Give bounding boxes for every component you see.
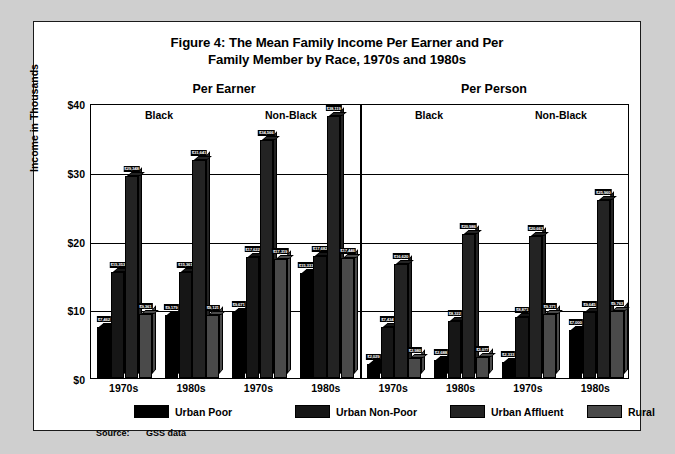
x-axis-tick-label: 1980s xyxy=(427,382,494,394)
bar: $9,179 xyxy=(165,315,178,378)
bar-value-label: $31,641 xyxy=(191,150,207,156)
bar: $9,371 xyxy=(543,314,556,378)
bar-value-label: $16,620 xyxy=(393,253,409,259)
bar-front-face xyxy=(502,362,515,378)
bar-front-face xyxy=(476,357,489,378)
bar-value-label: $29,348 xyxy=(123,166,139,172)
bar-side-face xyxy=(354,249,358,374)
bar-front-face xyxy=(462,234,475,378)
bar-side-face xyxy=(152,305,156,374)
bar-value-label: $17,622 xyxy=(244,246,260,252)
bar-front-face xyxy=(232,312,245,378)
bar-side-face xyxy=(219,307,223,374)
bar-value-label: $25,960 xyxy=(595,189,611,195)
bar-front-face xyxy=(165,315,178,378)
bar-side-face xyxy=(556,305,560,374)
bar-value-label: $2,333 xyxy=(501,351,515,357)
x-axis-tick-label: 1980s xyxy=(292,382,359,394)
legend-label: Urban Poor xyxy=(175,406,232,418)
bar: $17,622 xyxy=(246,257,259,378)
bar: $2,980 xyxy=(408,358,421,378)
bar: $20,663 xyxy=(529,236,542,378)
bar: $34,566 xyxy=(260,140,273,378)
bar-front-face xyxy=(246,257,259,378)
bar: $9,121 xyxy=(206,315,219,378)
bar-front-face xyxy=(206,315,219,378)
bar-value-label: $7,434 xyxy=(380,316,394,322)
bar: $7,000 xyxy=(569,330,582,378)
bar-value-label: $2,029 xyxy=(366,354,380,360)
chart-title: Figure 4: The Mean Family Income Per Ear… xyxy=(34,34,640,68)
bar-front-face xyxy=(583,312,596,378)
bar-front-face xyxy=(97,327,110,378)
bar: $15,333 xyxy=(300,273,313,378)
sub-panel-header: Non-Black xyxy=(501,109,621,121)
bar: $7,434 xyxy=(381,327,394,378)
bar-front-face xyxy=(192,160,205,378)
bar-front-face xyxy=(367,364,380,378)
bar-front-face xyxy=(313,256,326,378)
bar-value-label: $17,446 xyxy=(339,248,355,254)
legend-item[interactable]: Urban Poor xyxy=(134,405,232,418)
bar-value-label: $7,462 xyxy=(97,316,111,322)
bar-side-face xyxy=(624,302,628,374)
bar: $9,671 xyxy=(232,312,245,378)
bar: $2,333 xyxy=(502,362,515,378)
bar: $15,353 xyxy=(111,272,124,378)
bar: $17,446 xyxy=(341,258,354,378)
bar-front-face xyxy=(125,176,138,378)
bar-value-label: $15,353 xyxy=(110,262,126,268)
panel-header-per-person: Per Person xyxy=(360,82,628,96)
bar-front-face xyxy=(381,327,394,378)
bar-front-face xyxy=(448,321,461,378)
plot-area: $40$30$20$10$0BlackNon-BlackBlackNon-Bla… xyxy=(90,104,629,379)
bar: $8,871 xyxy=(515,317,528,378)
bar: $9,361 xyxy=(139,314,152,378)
bar-front-face xyxy=(408,358,421,378)
legend-label: Rural xyxy=(628,406,655,418)
sub-panel-header: Black xyxy=(369,109,489,121)
bar-value-label: $9,121 xyxy=(206,305,220,311)
bar-value-label: $20,663 xyxy=(528,225,544,231)
bar: $29,348 xyxy=(125,176,138,378)
bar-value-label: $9,371 xyxy=(543,303,557,309)
bar-value-label: $9,361 xyxy=(138,303,152,309)
bar: $7,462 xyxy=(97,327,110,378)
bar-value-label: $8,322 xyxy=(448,310,462,316)
bar-value-label: $15,361 xyxy=(177,262,193,268)
bar-value-label: $17,319 xyxy=(272,248,288,254)
legend-item[interactable]: Rural xyxy=(587,405,655,418)
bar: $9,645 xyxy=(583,312,596,378)
legend-swatch xyxy=(134,405,169,418)
bar: $2,029 xyxy=(367,364,380,378)
bar: $9,763 xyxy=(610,311,623,378)
x-axis-tick-label: 1980s xyxy=(157,382,224,394)
x-axis-tick-label: 1970s xyxy=(225,382,292,394)
bar-front-face xyxy=(569,330,582,378)
bar-value-label: $20,986 xyxy=(460,223,476,229)
bar-front-face xyxy=(597,200,610,378)
y-axis-tick-label: $40 xyxy=(39,99,85,111)
y-axis-tick-label: $10 xyxy=(39,305,85,317)
bar: $16,620 xyxy=(394,264,407,378)
bar-front-face xyxy=(341,258,354,378)
bar: $2,688 xyxy=(434,360,447,378)
bar-value-label: $38,119 xyxy=(326,105,342,111)
y-axis-tick-label: $30 xyxy=(39,168,85,180)
bar-value-label: $17,682 xyxy=(312,246,328,252)
legend-item[interactable]: Urban Affluent xyxy=(450,405,564,418)
bar-front-face xyxy=(610,311,623,378)
chart-legend: Urban PoorUrban Non-PoorUrban AffluentRu… xyxy=(90,405,650,421)
source-label: Source: xyxy=(96,428,130,438)
y-axis-title: Income in Thousands xyxy=(28,64,40,172)
bar-side-face xyxy=(421,349,425,374)
y-axis-tick-label: $0 xyxy=(39,374,85,386)
legend-item[interactable]: Urban Non-Poor xyxy=(295,405,417,418)
x-axis-tick-label: 1970s xyxy=(360,382,427,394)
sub-panel-header: Black xyxy=(99,109,219,121)
source-row: Source: GSS data xyxy=(96,428,186,438)
x-axis-tick-label: 1970s xyxy=(90,382,157,394)
bar: $17,319 xyxy=(274,259,287,378)
bar-value-label: $2,688 xyxy=(434,349,448,355)
bar-front-face xyxy=(139,314,152,378)
